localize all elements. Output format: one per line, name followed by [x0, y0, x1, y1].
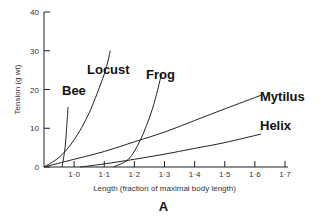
- x-tick-label: 1·6: [249, 170, 261, 179]
- x-tick-label: 1·2: [129, 170, 141, 179]
- x-tick-label: 1·0: [68, 170, 80, 179]
- x-axis-title: Length (fraction of maximal body length): [93, 184, 236, 193]
- y-axis-title: Tension (g wt): [13, 64, 22, 114]
- x-tick-label: 1·4: [189, 170, 201, 179]
- label-locust: Locust: [87, 62, 130, 77]
- x-tick-label: 1·3: [159, 170, 171, 179]
- y-tick-label: 40: [30, 8, 39, 17]
- y-tick-label: 0: [35, 163, 40, 172]
- label-mytilus: Mytilus: [260, 89, 305, 104]
- label-helix: Helix: [260, 118, 292, 133]
- label-bee: Bee: [62, 83, 86, 98]
- curve-frog: [113, 74, 161, 167]
- y-tick-label: 20: [30, 86, 39, 95]
- panel-label: A: [159, 199, 169, 214]
- chart: 0102030401·01·11·21·31·41·51·61·7Length …: [0, 0, 323, 219]
- y-tick-label: 30: [30, 47, 39, 56]
- curve-bee: [62, 107, 68, 167]
- x-tick-label: 1·5: [219, 170, 231, 179]
- labels: BeeLocustFrogMytilusHelix: [62, 62, 305, 133]
- y-tick-label: 10: [30, 124, 39, 133]
- x-tick-label: 1·7: [279, 170, 291, 179]
- x-tick-label: 1·1: [98, 170, 110, 179]
- label-frog: Frog: [146, 67, 175, 82]
